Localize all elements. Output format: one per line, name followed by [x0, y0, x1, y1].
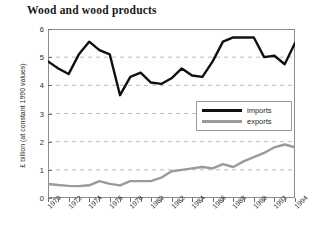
y-tick-label: 1 [30, 165, 44, 174]
x-tick-label: 1994 [293, 194, 309, 210]
y-tick-mark [48, 142, 52, 143]
legend: imports exports [196, 101, 292, 131]
x-tick-mark [161, 198, 162, 202]
x-tick-mark [285, 198, 286, 202]
legend-swatch-imports-icon [202, 109, 242, 113]
page-title: Wood and wood products [27, 4, 157, 16]
y-tick-label: 4 [30, 81, 44, 90]
legend-item-imports: imports [202, 105, 287, 116]
x-tick-mark [99, 198, 100, 202]
x-tick-mark [202, 198, 203, 202]
y-tick-label: 3 [30, 109, 44, 118]
x-tick-mark [223, 198, 224, 202]
y-axis-label: £ billion (at constant 1990 values) [19, 36, 26, 196]
x-tick-mark [264, 198, 265, 202]
x-tick-mark [141, 198, 142, 202]
legend-item-exports: exports [202, 116, 287, 127]
y-tick-mark [48, 170, 52, 171]
y-axis-tick-labels: 0123456 [28, 0, 44, 232]
y-tick-label: 0 [30, 194, 44, 203]
y-tick-mark [48, 29, 52, 30]
y-tick-mark [48, 114, 52, 115]
series-line-imports [48, 37, 295, 95]
y-tick-label: 5 [30, 53, 44, 62]
y-tick-label: 6 [30, 25, 44, 34]
y-tick-mark [48, 57, 52, 58]
x-tick-mark [58, 198, 59, 202]
x-tick-mark [244, 198, 245, 202]
chart-figure: Wood and wood products £ billion (at con… [0, 0, 315, 232]
legend-label-exports: exports [247, 117, 272, 126]
legend-label-imports: imports [247, 106, 272, 115]
y-tick-label: 2 [30, 137, 44, 146]
series-line-exports [48, 144, 295, 186]
x-tick-mark [79, 198, 80, 202]
x-tick-mark [182, 198, 183, 202]
legend-swatch-exports-icon [202, 120, 242, 124]
x-tick-mark [120, 198, 121, 202]
y-tick-mark [48, 85, 52, 86]
